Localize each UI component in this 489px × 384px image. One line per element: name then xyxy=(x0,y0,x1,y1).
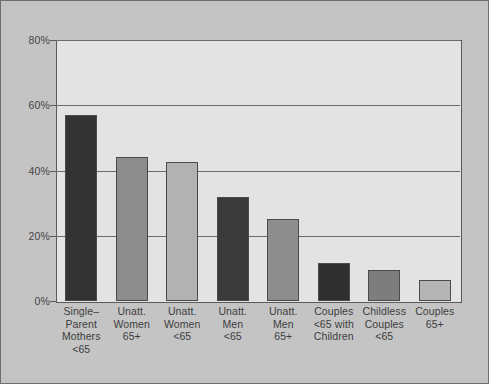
bar xyxy=(368,270,400,301)
bar-slot xyxy=(318,40,350,301)
x-axis-label-line: <65 with xyxy=(309,318,360,331)
x-axis-label-line: Unatt. xyxy=(107,305,158,318)
x-axis-label: Unatt.Women65+ xyxy=(107,305,158,343)
x-axis-label-line: <65 xyxy=(359,330,410,343)
bar-slot xyxy=(267,40,299,301)
x-axis-label-line: <65 xyxy=(157,330,208,343)
bar xyxy=(217,197,249,301)
bar-chart-figure: 0%20%40%60%80% Single–ParentMothers<65Un… xyxy=(0,0,489,384)
x-axis-label-line: Couples xyxy=(410,305,461,318)
x-axis-label: ChildlessCouples<65 xyxy=(359,305,410,343)
bar xyxy=(166,162,198,301)
bar xyxy=(267,219,299,301)
x-axis-label-line: Couples xyxy=(359,318,410,331)
bar xyxy=(419,280,451,301)
x-axis-label-line: Unatt. xyxy=(157,305,208,318)
x-axis-label: Unatt.Women<65 xyxy=(157,305,208,343)
x-axis-label-line: Childless xyxy=(359,305,410,318)
x-axis-label: Couples65+ xyxy=(410,305,461,330)
x-axis-label-line: Children xyxy=(309,330,360,343)
x-axis-label-line: Parent xyxy=(56,318,107,331)
y-tick-label: 80% xyxy=(6,34,50,46)
bar-series xyxy=(56,40,460,301)
x-axis-label: Couples<65 withChildren xyxy=(309,305,360,343)
bar-slot xyxy=(419,40,451,301)
x-axis-label-line: Unatt. xyxy=(258,305,309,318)
x-axis-label-line: Men xyxy=(258,318,309,331)
bar-slot xyxy=(368,40,400,301)
y-tick-mark xyxy=(50,301,56,302)
x-axis-label-line: Women xyxy=(107,318,158,331)
x-axis-label-line: <65 xyxy=(208,330,259,343)
bar-slot xyxy=(166,40,198,301)
x-axis-label-line: Mothers xyxy=(56,330,107,343)
y-tick-label: 60% xyxy=(6,99,50,111)
bar-slot xyxy=(217,40,249,301)
x-axis-label-line: Men xyxy=(208,318,259,331)
x-axis-label: Single–ParentMothers<65 xyxy=(56,305,107,355)
x-axis-label: Unatt.Men<65 xyxy=(208,305,259,343)
bar-slot xyxy=(116,40,148,301)
x-axis-label-line: Single– xyxy=(56,305,107,318)
x-axis-label-line: 65+ xyxy=(258,330,309,343)
y-tick-label: 40% xyxy=(6,165,50,177)
bar xyxy=(116,157,148,301)
x-axis-label-line: Unatt. xyxy=(208,305,259,318)
x-axis-label-line: 65+ xyxy=(107,330,158,343)
y-tick-label: 20% xyxy=(6,230,50,242)
x-axis-label: Unatt.Men65+ xyxy=(258,305,309,343)
x-axis-label-line: Couples xyxy=(309,305,360,318)
y-tick-label: 0% xyxy=(6,295,50,307)
y-axis: 0%20%40%60%80% xyxy=(1,1,50,384)
x-axis-labels: Single–ParentMothers<65Unatt.Women65+Una… xyxy=(56,305,460,381)
bar-slot xyxy=(65,40,97,301)
bar xyxy=(65,115,97,301)
x-axis-label-line: Women xyxy=(157,318,208,331)
x-axis-label-line: <65 xyxy=(56,343,107,356)
bar xyxy=(318,263,350,301)
x-axis-label-line: 65+ xyxy=(410,318,461,331)
